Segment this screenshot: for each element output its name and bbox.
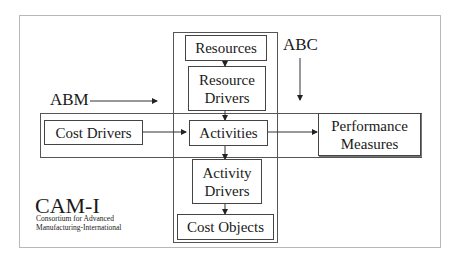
resources-box: Resources [185,35,267,61]
resource-drivers-box: Resource Drivers [188,66,266,111]
cost-drivers-box: Cost Drivers [44,120,143,145]
cam-i-fullname-line2: Manufacturing-International [36,223,121,233]
abc-label: ABC [283,35,318,55]
cost-objects-label: Cost Objects [187,218,264,236]
resources-label: Resources [195,39,257,57]
cost-objects-box: Cost Objects [177,214,274,240]
activity-drivers-label-line1: Activity [202,164,251,182]
performance-measures-label-line2: Measures [341,135,398,153]
performance-measures-label-line1: Performance [331,117,408,135]
activities-label: Activities [199,124,257,142]
activity-drivers-box: Activity Drivers [192,159,262,204]
activity-drivers-label-line2: Drivers [205,182,250,200]
resource-drivers-label-line2: Drivers [205,89,250,107]
abm-label: ABM [50,90,89,110]
cost-drivers-label: Cost Drivers [55,124,131,142]
activities-box: Activities [189,120,268,146]
resource-drivers-label-line1: Resource [199,71,255,89]
performance-measures-box: Performance Measures [318,113,421,156]
